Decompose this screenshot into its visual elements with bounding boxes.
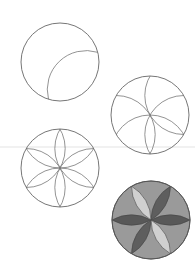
step-1-circle bbox=[21, 23, 99, 101]
step-4-shaded-circle bbox=[112, 181, 190, 259]
rosette-construction-diagram bbox=[0, 0, 195, 269]
step-2-circle bbox=[77, 57, 195, 194]
